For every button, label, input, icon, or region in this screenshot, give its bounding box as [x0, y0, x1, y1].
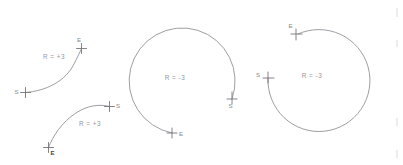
diagram-canvas: S E R = +3 S E R = +3: [0, 0, 403, 165]
edge-artifact: [396, 8, 398, 17]
end-label: E: [179, 130, 183, 137]
start-label: S: [116, 102, 120, 109]
arc-diagram-svg: S E R = +3 S E R = +3: [0, 0, 403, 165]
figure-arc-negative-middle: S E R = -3: [129, 28, 237, 138]
figure-arc-positive-2: S E R = +3: [44, 102, 121, 157]
end-marker: [291, 29, 302, 40]
end-label: E: [51, 150, 55, 156]
figure-arc-positive-1: S E R = +3: [15, 36, 87, 98]
edge-artifact: [396, 150, 398, 158]
end-marker: [77, 44, 87, 54]
start-label: S: [15, 88, 19, 95]
start-marker: [263, 72, 274, 83]
radius-label: R = +3: [43, 53, 65, 60]
start-label: S: [256, 71, 260, 78]
edge-artifact: [396, 118, 398, 126]
start-marker: [105, 102, 115, 112]
end-label: E: [289, 22, 293, 29]
radius-label: R = +3: [79, 120, 101, 127]
start-marker: [21, 88, 31, 98]
start-label: S: [229, 102, 233, 109]
end-marker: [167, 128, 177, 138]
scan-edge-artifacts: [396, 8, 398, 158]
radius-label: R = -3: [165, 74, 186, 81]
figure-arc-negative-right: S E R = -3: [256, 22, 370, 132]
radius-label: R = -3: [302, 72, 323, 79]
arc-curve: [268, 30, 370, 132]
edge-artifact: [396, 40, 398, 47]
end-label: E: [77, 36, 81, 43]
